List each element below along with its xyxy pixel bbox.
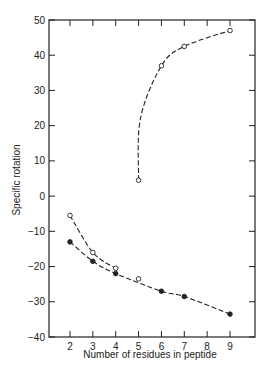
y-tick-label: −30	[28, 296, 45, 307]
y-tick-label: −40	[28, 332, 45, 343]
y-tick-label: −20	[28, 261, 45, 272]
open-circle-marker	[136, 277, 141, 282]
y-axis-label: Specific rotation	[11, 144, 22, 215]
x-axis-label: Number of residues in peptide	[83, 349, 217, 360]
filled-circle-marker	[68, 240, 73, 245]
y-tick-label: 0	[39, 191, 45, 202]
open-circle-marker	[68, 213, 73, 218]
y-tick-label: 50	[34, 15, 46, 26]
filled-circle-marker	[91, 259, 96, 264]
y-tick-label: 20	[34, 120, 46, 131]
plot-frame	[49, 20, 255, 337]
open-circle-marker	[159, 63, 164, 68]
y-tick-label: 40	[34, 50, 46, 61]
filled-circle-marker	[182, 294, 187, 299]
open-circle-marker	[228, 28, 233, 33]
specific-rotation-chart: 50403020100−10−20−30−4023456789 Number o…	[0, 0, 269, 380]
y-tick-label: 30	[34, 85, 46, 96]
series-line-open-circles-high	[138, 31, 230, 181]
data-points	[68, 28, 233, 316]
y-tick-label: −10	[28, 226, 45, 237]
plot-border	[49, 20, 255, 337]
y-tick-label: 10	[34, 155, 46, 166]
filled-circle-marker	[228, 312, 233, 317]
axis-ticks: 50403020100−10−20−30−4023456789	[28, 15, 255, 353]
open-circle-marker	[182, 44, 187, 49]
open-circle-marker	[113, 266, 118, 271]
data-lines	[70, 31, 230, 315]
filled-circle-marker	[113, 271, 118, 276]
x-tick-label: 9	[227, 341, 233, 352]
x-tick-label: 2	[67, 341, 73, 352]
filled-circle-marker	[159, 289, 164, 294]
open-circle-marker	[136, 178, 141, 183]
open-circle-marker	[91, 250, 96, 255]
